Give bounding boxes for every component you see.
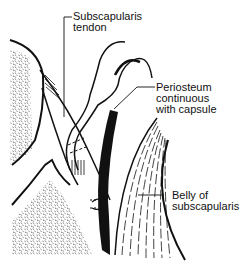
- tendon-dash-2: [70, 147, 86, 153]
- anatomy-diagram: [0, 0, 244, 271]
- label-line: with capsule: [156, 104, 217, 115]
- label-belly-of-subscapularis: Belly of subscapularis: [172, 190, 239, 212]
- label-line: subscapularis: [172, 201, 239, 212]
- belly-inner-outline: [115, 118, 157, 255]
- capsule-arc: [115, 60, 140, 75]
- periosteum-band: [98, 110, 118, 255]
- leader-periosteum: [114, 87, 155, 109]
- label-line: tendon: [73, 22, 142, 33]
- leader-subscapularis-tendon: [64, 17, 72, 117]
- label-subscapularis-tendon: Subscapularis tendon: [73, 11, 142, 33]
- tendon-inner: [42, 88, 78, 185]
- label-periosteum: Periosteum continuous with capsule: [156, 82, 217, 115]
